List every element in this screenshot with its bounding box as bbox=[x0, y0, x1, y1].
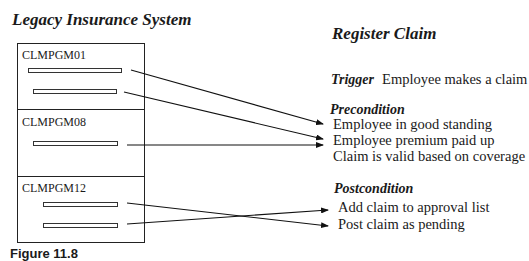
precondition-item: Claim is valid based on coverage bbox=[333, 148, 525, 165]
figure-caption: Figure 11.8 bbox=[10, 246, 78, 261]
postcondition-item: Post claim as pending bbox=[338, 216, 465, 233]
arrow bbox=[127, 210, 328, 224]
trigger-text: Employee makes a claim bbox=[382, 71, 527, 87]
postcondition-heading: Postcondition bbox=[334, 181, 413, 197]
precondition-item: Employee premium paid up bbox=[333, 132, 494, 149]
postcondition-item: Add claim to approval list bbox=[338, 199, 489, 216]
trigger-label: Trigger bbox=[331, 72, 374, 87]
trigger-row: Trigger Employee makes a claim bbox=[331, 70, 527, 88]
precondition-item: Employee in good standing bbox=[333, 116, 492, 133]
arrow bbox=[127, 203, 328, 226]
